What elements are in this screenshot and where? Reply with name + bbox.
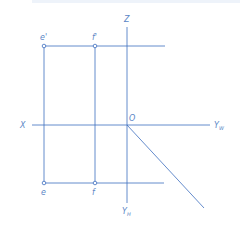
label-yw: YW: [214, 121, 225, 131]
label-f: f: [92, 188, 96, 197]
label-x: X: [19, 121, 26, 130]
point-f-prime: [93, 44, 97, 48]
label-origin: O: [129, 114, 135, 123]
label-e: e: [41, 188, 46, 197]
label-e-prime: e': [40, 33, 47, 42]
label-yh: YH: [122, 207, 131, 217]
projection-diagram: Z X O YW YH e' f' e f: [0, 0, 246, 245]
diagonal-45-line: [127, 125, 204, 208]
point-f: [93, 181, 97, 185]
label-z: Z: [123, 15, 130, 24]
label-f-prime: f': [92, 33, 97, 42]
point-e-prime: [42, 44, 46, 48]
point-e: [42, 181, 46, 185]
